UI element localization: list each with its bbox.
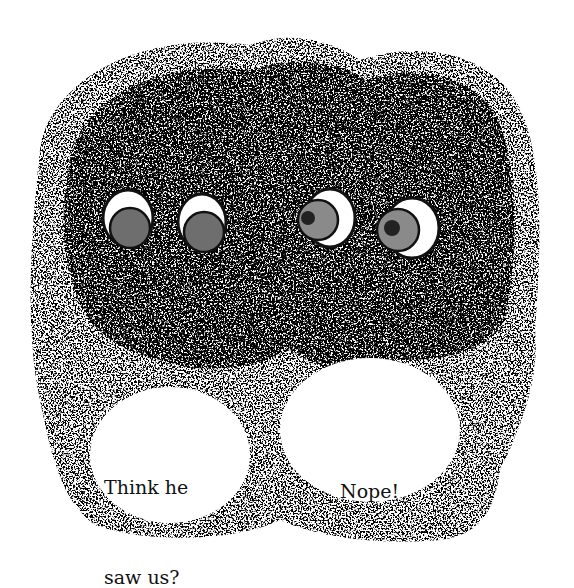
bubble-line-2: saw us?	[104, 562, 188, 588]
eye-icon	[103, 190, 153, 248]
speech-bubble-right-text: Nope!	[340, 416, 399, 536]
eye-icon	[178, 194, 226, 252]
bubble-line-1: Think he	[104, 472, 188, 502]
speech-bubble-left-text: Think he saw us?	[104, 412, 188, 588]
bubble-line: Nope!	[340, 476, 399, 506]
